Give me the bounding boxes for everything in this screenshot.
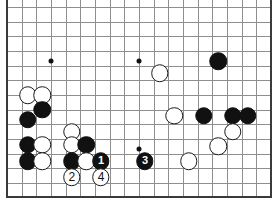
stone-white[interactable] bbox=[224, 123, 242, 141]
grid-line-vertical bbox=[198, 0, 199, 196]
go-diagram-root: 1243 bbox=[0, 0, 276, 205]
grid-line-vertical bbox=[154, 0, 155, 196]
move-stone-3[interactable]: 3 bbox=[136, 152, 154, 170]
move-stone-4[interactable]: 4 bbox=[92, 168, 110, 186]
stone-black[interactable] bbox=[77, 136, 95, 154]
stone-white[interactable] bbox=[165, 107, 183, 125]
move-number-label: 3 bbox=[142, 156, 148, 167]
move-number-label: 4 bbox=[98, 171, 104, 183]
star-point bbox=[49, 59, 54, 64]
board-edge-left bbox=[6, 0, 8, 198]
grid-line-vertical bbox=[227, 0, 228, 196]
grid-line-vertical bbox=[110, 0, 111, 196]
star-point bbox=[137, 147, 142, 152]
grid-line-vertical bbox=[168, 0, 169, 196]
grid-line-vertical bbox=[124, 0, 125, 196]
stone-white[interactable] bbox=[151, 64, 169, 82]
stone-white[interactable] bbox=[33, 152, 51, 170]
grid-line-vertical bbox=[51, 0, 52, 196]
move-number-label: 2 bbox=[68, 171, 74, 183]
grid-line-vertical bbox=[256, 0, 257, 196]
grid-line-vertical bbox=[242, 0, 243, 196]
star-point bbox=[137, 59, 142, 64]
stone-white[interactable] bbox=[180, 152, 198, 170]
stone-white[interactable] bbox=[33, 136, 51, 154]
stone-white[interactable] bbox=[209, 138, 227, 156]
board-edge-bottom bbox=[6, 196, 271, 198]
move-stone-2[interactable]: 2 bbox=[63, 168, 81, 186]
grid-line-vertical bbox=[212, 0, 213, 196]
move-stone-1[interactable]: 1 bbox=[92, 152, 110, 170]
stone-black[interactable] bbox=[19, 111, 37, 129]
stone-black[interactable] bbox=[239, 107, 257, 125]
move-number-label: 1 bbox=[98, 156, 104, 167]
stone-black[interactable] bbox=[209, 53, 227, 71]
stone-black[interactable] bbox=[195, 107, 213, 125]
board-edge-right bbox=[270, 0, 272, 198]
go-board[interactable]: 1243 bbox=[0, 0, 276, 205]
